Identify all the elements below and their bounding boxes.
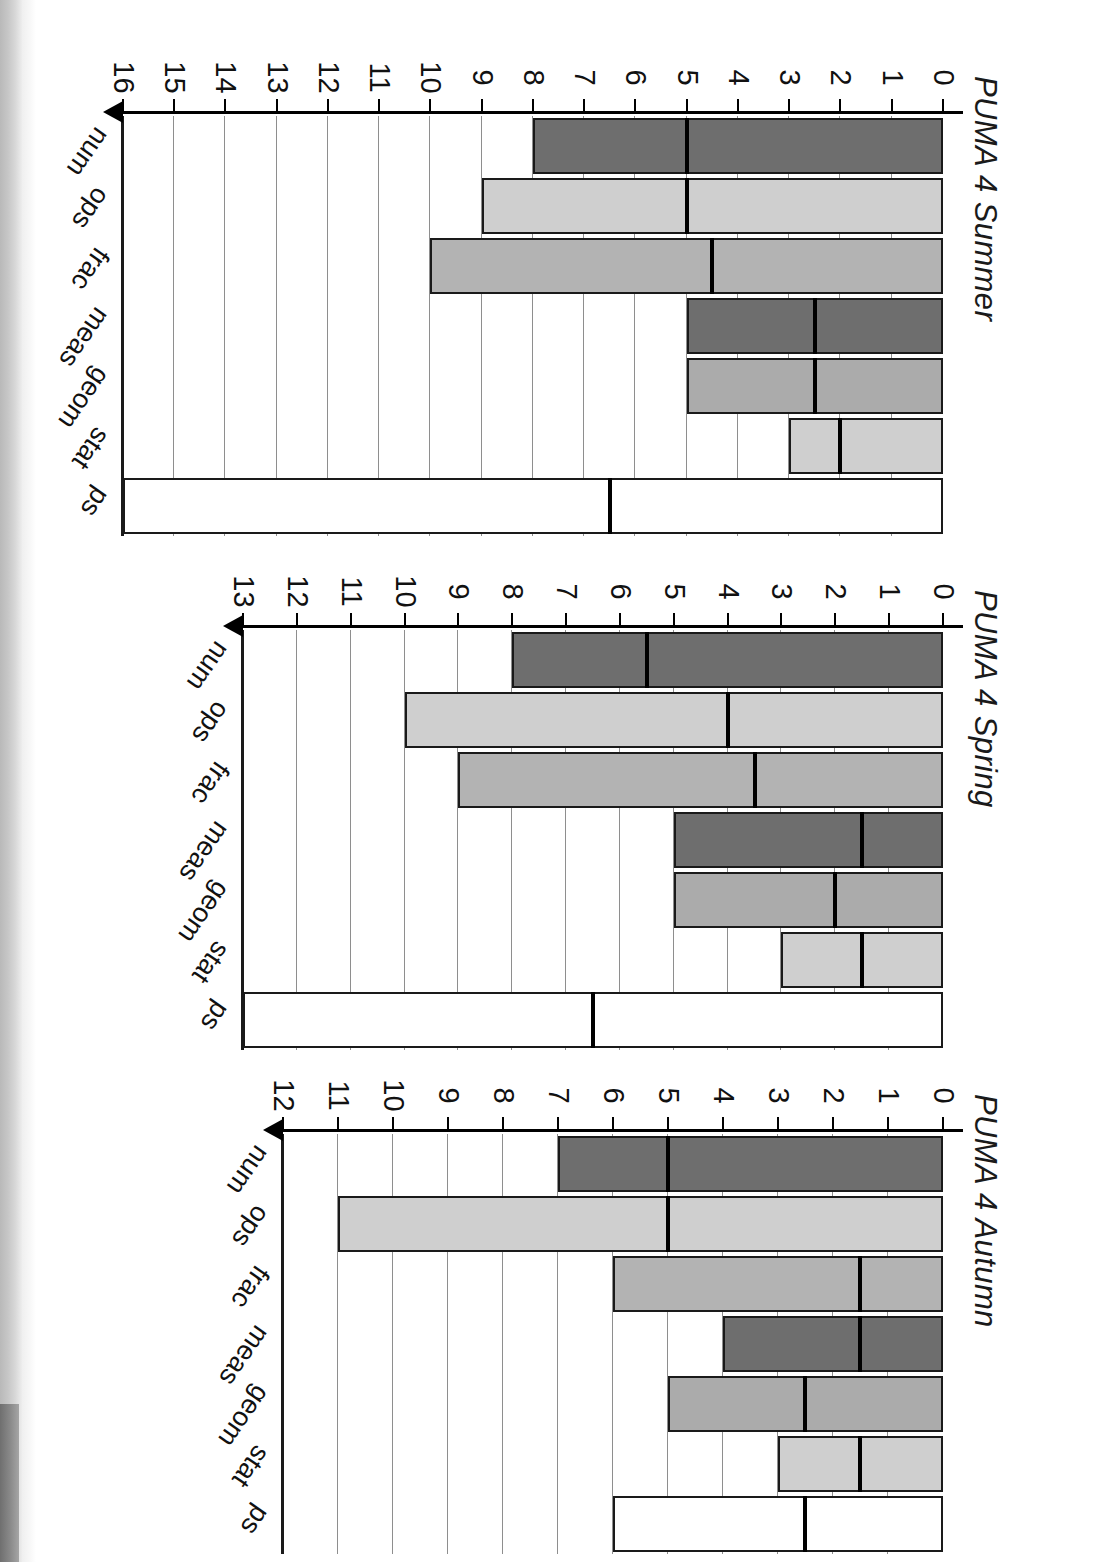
median-marker-summer-frac: [710, 238, 714, 293]
x-tick-label: 0: [927, 52, 960, 104]
x-axis-line-autumn: [283, 1129, 963, 1132]
bar-autumn-meas: [723, 1316, 943, 1371]
bar-spring-geom: [674, 872, 943, 927]
category-label-autumn-ps: ps: [234, 1500, 276, 1541]
x-tick-label: 2: [819, 566, 852, 618]
category-label-summer-geom: geom: [52, 362, 116, 435]
median-marker-spring-frac: [753, 752, 757, 807]
x-axis-arrow-autumn: [263, 1119, 283, 1141]
x-tick-label: 8: [517, 52, 550, 104]
gridline: [225, 116, 226, 536]
median-marker-summer-stat: [839, 418, 843, 473]
category-label-spring-ops: ops: [185, 696, 235, 749]
median-marker-summer-num: [685, 118, 689, 173]
x-tick-label: 2: [817, 1070, 850, 1122]
category-label-autumn-frac: frac: [224, 1260, 275, 1315]
gridline: [430, 116, 431, 536]
x-tick-label: 5: [657, 566, 690, 618]
median-marker-spring-ops: [726, 692, 730, 747]
category-label-summer-ps: ps: [74, 482, 116, 523]
x-tick-label: 1: [875, 52, 908, 104]
x-tick-label: 7: [568, 52, 601, 104]
median-marker-autumn-ops: [666, 1196, 670, 1251]
panel-title-spring: PUMA 4 Spring: [967, 590, 1003, 808]
bar-spring-frac: [458, 752, 943, 807]
plot-area-autumn: numopsfracmeasgeomstatps: [283, 1134, 943, 1554]
x-tick-label: 10: [377, 1070, 410, 1122]
bar-autumn-ops: [338, 1196, 943, 1251]
median-marker-spring-num: [645, 632, 649, 687]
bar-spring-meas: [674, 812, 943, 867]
x-tick-label: 8: [496, 566, 529, 618]
category-label-spring-num: num: [180, 636, 236, 697]
bar-summer-frac: [431, 238, 944, 293]
x-tick-label: 12: [312, 52, 345, 104]
category-label-summer-num: num: [60, 122, 116, 183]
category-label-autumn-meas: meas: [212, 1320, 275, 1392]
panel-autumn: PUMA 4 Autumnnumopsfracmeasgeomstatps012…: [185, 1014, 1015, 1554]
x-tick-label: 3: [773, 52, 806, 104]
rotated-page-content: PUMA 4 Summernumopsfracmeasgeomstatps012…: [0, 0, 1107, 1562]
bar-spring-num: [512, 632, 943, 687]
x-axis-line-summer: [123, 111, 963, 114]
x-tick-label: 11: [322, 1070, 355, 1122]
x-tick-label: 4: [711, 566, 744, 618]
category-label-spring-geom: geom: [172, 876, 236, 949]
x-tick-label: 12: [280, 566, 313, 618]
median-marker-summer-meas: [813, 298, 817, 353]
median-marker-autumn-meas: [859, 1316, 863, 1371]
x-tick-label: 12: [267, 1070, 300, 1122]
x-tick-label: 15: [158, 52, 191, 104]
plot-area-spring: numopsfracmeasgeomstatps: [243, 630, 943, 1050]
category-label-autumn-geom: geom: [212, 1380, 276, 1453]
category-label-summer-frac: frac: [64, 242, 115, 297]
x-tick-label: 0: [927, 1070, 960, 1122]
bar-spring-ops: [405, 692, 943, 747]
plot-area-summer: numopsfracmeasgeomstatps: [123, 116, 943, 536]
gridline: [378, 116, 379, 536]
panel-summer: PUMA 4 Summernumopsfracmeasgeomstatps012…: [25, 0, 1015, 536]
x-tick-label: 13: [260, 52, 293, 104]
category-label-autumn-ops: ops: [225, 1200, 275, 1253]
zero-baseline-autumn: [281, 1134, 284, 1554]
x-tick-label: 10: [414, 52, 447, 104]
gridline: [296, 630, 297, 1050]
x-tick-label: 11: [334, 566, 367, 618]
bar-autumn-num: [558, 1136, 943, 1191]
median-marker-autumn-ps: [804, 1496, 808, 1551]
gridline: [327, 116, 328, 536]
category-label-spring-meas: meas: [172, 816, 235, 888]
median-marker-autumn-frac: [859, 1256, 863, 1311]
panel-spring: PUMA 4 Springnumopsfracmeasgeomstatps012…: [145, 510, 1015, 1050]
x-tick-label: 7: [550, 566, 583, 618]
x-tick-label: 13: [227, 566, 260, 618]
x-tick-label: 8: [487, 1070, 520, 1122]
x-tick-label: 5: [652, 1070, 685, 1122]
median-marker-summer-geom: [813, 358, 817, 413]
median-marker-spring-geom: [833, 872, 837, 927]
x-axis-arrow-spring: [223, 615, 243, 637]
median-marker-autumn-geom: [804, 1376, 808, 1431]
gridline: [173, 116, 174, 536]
x-tick-label: 9: [432, 1070, 465, 1122]
category-label-summer-meas: meas: [52, 302, 115, 374]
bar-summer-num: [533, 118, 943, 173]
x-tick-label: 10: [388, 566, 421, 618]
x-axis-arrow-summer: [103, 101, 123, 123]
x-tick-label: 1: [873, 566, 906, 618]
x-tick-label: 2: [824, 52, 857, 104]
x-tick-label: 9: [442, 566, 475, 618]
median-marker-spring-stat: [860, 932, 864, 987]
x-tick-label: 4: [707, 1070, 740, 1122]
x-tick-label: 5: [670, 52, 703, 104]
zero-baseline-spring: [241, 630, 244, 1050]
x-tick-label: 6: [603, 566, 636, 618]
bar-autumn-frac: [613, 1256, 943, 1311]
category-label-autumn-num: num: [220, 1140, 276, 1201]
x-tick-label: 9: [465, 52, 498, 104]
gridline: [350, 630, 351, 1050]
x-tick-label: 0: [927, 566, 960, 618]
panel-title-autumn: PUMA 4 Autumn: [967, 1094, 1003, 1328]
x-tick-label: 1: [872, 1070, 905, 1122]
x-tick-label: 11: [363, 52, 396, 104]
